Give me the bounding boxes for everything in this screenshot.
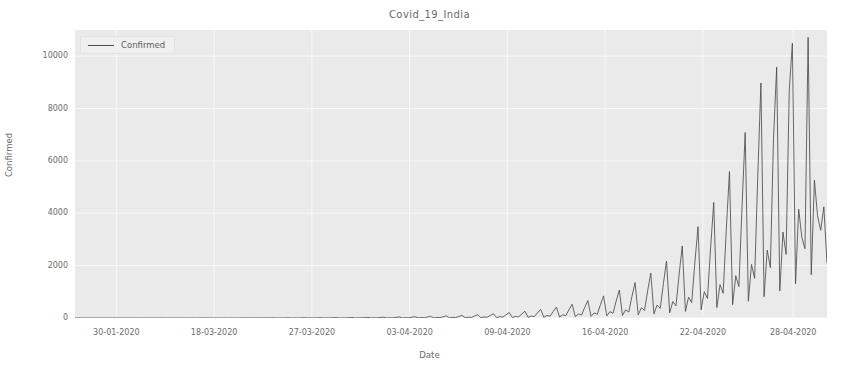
x-tick-label: 09-04-2020 bbox=[462, 328, 552, 337]
y-tick-label: 10000 bbox=[8, 51, 68, 60]
y-tick-label: 2000 bbox=[8, 261, 68, 270]
legend-label-confirmed: Confirmed bbox=[121, 40, 165, 50]
y-tick-label: 4000 bbox=[8, 208, 68, 217]
y-tick-label: 0 bbox=[8, 313, 68, 322]
x-tick-label: 30-01-2020 bbox=[71, 328, 161, 337]
x-tick-label: 18-03-2020 bbox=[169, 328, 259, 337]
x-tick-label: 16-04-2020 bbox=[560, 328, 650, 337]
horizontal-gridlines bbox=[75, 56, 827, 318]
vertical-gridlines bbox=[116, 30, 793, 318]
y-axis-title: Confirmed bbox=[4, 115, 14, 195]
x-tick-label: 22-04-2020 bbox=[658, 328, 748, 337]
x-tick-label: 28-04-2020 bbox=[748, 328, 838, 337]
y-tick-label: 8000 bbox=[8, 104, 68, 113]
y-tick-label: 6000 bbox=[8, 156, 68, 165]
series-path-confirmed bbox=[75, 37, 827, 318]
x-tick-label: 27-03-2020 bbox=[267, 328, 357, 337]
x-tick-label: 03-04-2020 bbox=[365, 328, 455, 337]
chart-title: Covid_19_India bbox=[0, 9, 859, 20]
plot-area bbox=[75, 30, 827, 318]
x-axis-title: Date bbox=[0, 350, 859, 360]
legend-line-swatch bbox=[88, 45, 114, 46]
chart-figure: Covid_19_India 0200040006000800010000 30… bbox=[0, 0, 859, 375]
chart-legend: Confirmed bbox=[80, 36, 175, 54]
confirmed-series-line bbox=[75, 30, 827, 318]
